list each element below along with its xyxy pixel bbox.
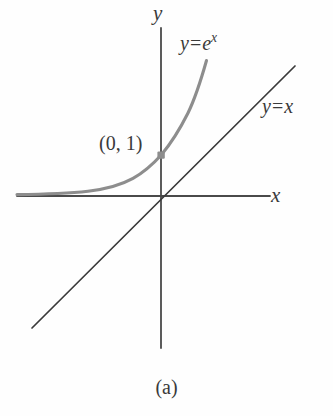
identity-line-y-equals-x <box>32 66 295 328</box>
figure-caption: (a) <box>0 376 333 399</box>
exponential-label-lhs: y <box>180 32 189 54</box>
exponential-label-exponent: x <box>211 30 217 45</box>
identity-label-rhs: x <box>284 95 293 117</box>
exponential-curve-y-equals-e-to-the-x <box>17 61 207 195</box>
exponential-function-figure: y x y=ex y=x (0, 1) (a) <box>0 0 333 416</box>
identity-label-operator: = <box>271 95 284 117</box>
exponential-label-operator: = <box>189 32 202 54</box>
point-marker-0-1 <box>157 151 164 158</box>
identity-label-lhs: y <box>262 95 271 117</box>
y-axis-label: y <box>153 3 162 24</box>
exponential-label-base: e <box>202 32 211 54</box>
figure-canvas <box>0 0 333 416</box>
identity-line-label: y=x <box>262 96 293 116</box>
point-label-0-1: (0, 1) <box>99 133 142 153</box>
x-axis-label: x <box>271 185 280 206</box>
exponential-curve-label: y=ex <box>180 31 217 53</box>
